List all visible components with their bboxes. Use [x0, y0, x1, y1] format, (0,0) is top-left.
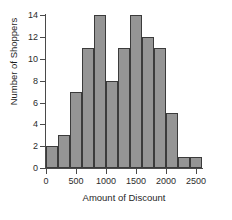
histogram-bar — [142, 37, 154, 168]
histogram-bar — [130, 15, 142, 168]
x-tick-mark — [76, 169, 77, 174]
histogram-bar — [58, 135, 70, 168]
plot-area — [46, 15, 202, 168]
y-tick-label: 2 — [33, 141, 38, 151]
histogram-bar — [46, 146, 58, 168]
y-tick-label: 12 — [28, 32, 38, 42]
x-axis-line — [45, 168, 203, 169]
histogram-bar — [118, 48, 130, 168]
x-tick-label: 500 — [68, 176, 83, 186]
histogram-bar — [178, 157, 190, 168]
y-tick-label: 10 — [28, 54, 38, 64]
y-tick-label: 14 — [28, 10, 38, 20]
histogram-figure: Number of Shoppers 0 2 4 6 8 10 12 14 0 … — [0, 0, 232, 220]
x-tick-mark — [46, 169, 47, 174]
histogram-bar — [106, 81, 118, 168]
x-tick-mark — [106, 169, 107, 174]
y-tick-label: 6 — [33, 98, 38, 108]
histogram-bar — [166, 113, 178, 168]
x-tick-label: 1500 — [126, 176, 146, 186]
histogram-bar — [70, 92, 82, 169]
x-tick-mark — [166, 169, 167, 174]
x-tick-label: 0 — [43, 176, 48, 186]
x-tick-mark — [196, 169, 197, 174]
y-tick-label-group: 0 2 4 6 8 10 12 14 — [0, 0, 38, 220]
x-tick-label: 1000 — [96, 176, 116, 186]
x-tick-mark — [136, 169, 137, 174]
x-tick-label: 2500 — [186, 176, 206, 186]
histogram-bar — [94, 15, 106, 168]
y-tick-label: 8 — [33, 76, 38, 86]
x-axis-title: Amount of Discount — [46, 192, 202, 203]
y-tick-label: 4 — [33, 119, 38, 129]
histogram-bar — [82, 48, 94, 168]
y-tick-label: 0 — [33, 163, 38, 173]
histogram-bar — [154, 48, 166, 168]
x-tick-label: 2000 — [156, 176, 176, 186]
histogram-bar — [190, 157, 202, 168]
